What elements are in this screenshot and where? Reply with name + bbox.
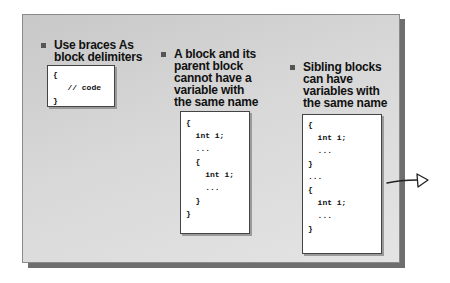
bullet-square-icon — [41, 43, 46, 48]
code-box-sibling-blocks: { int i; ... } ... { int i; ... } — [302, 114, 382, 254]
bullet-text: Sibling blocks can have variables with t… — [290, 61, 400, 109]
bullet-text: Use braces As block delimiters — [41, 39, 171, 63]
code-line: ... — [186, 142, 244, 155]
code-line: int i; — [186, 129, 244, 142]
code-line: { — [186, 155, 244, 168]
code-line: int i; — [308, 131, 376, 144]
code-line: // code — [53, 81, 109, 94]
code-line: } — [308, 222, 376, 235]
code-line: ... — [308, 144, 376, 157]
code-line: { — [186, 116, 244, 129]
code-line: } — [186, 194, 244, 207]
code-line: { — [308, 183, 376, 196]
code-line: int i; — [186, 168, 244, 181]
slide: Use braces As block delimiters { // code… — [22, 14, 400, 263]
code-line: ... — [308, 170, 376, 183]
bullet-sibling-blocks: Sibling blocks can have variables with t… — [290, 61, 400, 109]
bullet-square-icon — [290, 65, 295, 70]
code-line: { — [53, 68, 109, 81]
code-box-nested-blocks: { int i; ... { int i; ... } } — [180, 111, 250, 234]
bullet-use-braces: Use braces As block delimiters — [41, 39, 171, 63]
code-line: ... — [186, 181, 244, 194]
bullet-parent-block: A block and its parent block cannot have… — [161, 48, 291, 108]
hand-drawn-arrow-icon — [386, 170, 432, 196]
code-line: } — [308, 157, 376, 170]
bullet-square-icon — [161, 52, 166, 57]
code-line: int i; — [308, 196, 376, 209]
code-line: } — [186, 207, 244, 220]
code-box-basic-block: { // code } — [47, 65, 115, 107]
code-line: } — [53, 94, 109, 107]
bullet-text: A block and its parent block cannot have… — [161, 48, 291, 108]
code-line: ... — [308, 209, 376, 222]
code-line: { — [308, 118, 376, 131]
